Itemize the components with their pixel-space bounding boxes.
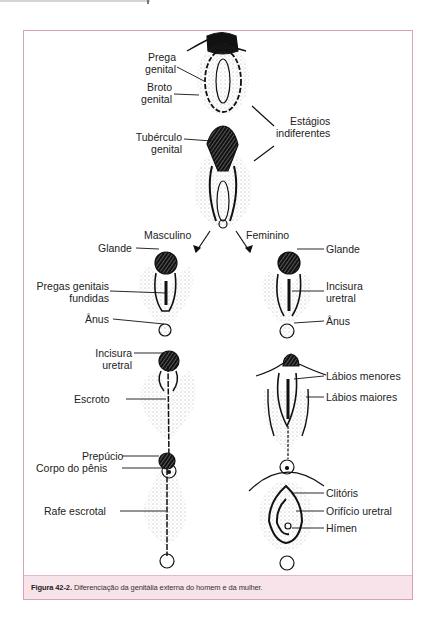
label-prepucio: Prepúcio (82, 450, 123, 462)
stage-1-drawing (187, 33, 249, 116)
label-corpo-do-penis: Corpo do pênis (36, 462, 107, 474)
male-stage-1-drawing (139, 252, 193, 336)
label-broto-genital: Broto genital (124, 81, 172, 105)
page-top-rule (0, 0, 150, 2)
figure-frame: Prega genital Broto genital Estágios ind… (23, 30, 413, 600)
label-pregas-genitais-fundidas: Pregas genitais fundidas (29, 280, 109, 304)
label-escroto: Escroto (74, 393, 110, 405)
label-female-anus: Ânus (326, 315, 350, 327)
label-estagios-indiferentes: Estágios indiferentes (276, 115, 330, 139)
page-top-tick (147, 0, 149, 4)
label-line: genital (124, 63, 176, 75)
label-line: Prega (124, 51, 176, 63)
figure-number: Figura 42-2. (31, 583, 72, 592)
label-line: uretral (326, 292, 363, 304)
label-prega-genital: Prega genital (124, 51, 176, 75)
label-himen: Hímen (326, 522, 357, 534)
label-male-glande: Glande (98, 242, 132, 254)
label-clitoris: Clitóris (326, 487, 358, 499)
stage-2-drawing (194, 126, 252, 228)
label-masculino: Masculino (144, 229, 191, 241)
label-line: indiferentes (276, 127, 330, 139)
label-tuberculo-genital: Tubérculo genital (120, 131, 182, 155)
label-line: genital (124, 93, 172, 105)
female-stage-1-drawing (262, 252, 312, 338)
female-stage-2-drawing (256, 354, 326, 474)
label-line: Broto (124, 81, 172, 93)
label-male-anus: Ânus (85, 313, 109, 325)
label-line: Tubérculo (120, 131, 182, 143)
label-rafe-escrotal: Rafe escrotal (44, 505, 106, 517)
label-line: Pregas genitais (29, 280, 109, 292)
label-feminino: Feminino (246, 229, 289, 241)
label-line: uretral (82, 359, 132, 371)
female-stage-3-drawing (249, 472, 324, 570)
male-stage-3-drawing (144, 453, 187, 568)
label-labios-maiores: Lábios maiores (326, 391, 397, 403)
label-line: Incisura (82, 347, 132, 359)
label-female-glande: Glande (326, 243, 360, 255)
label-orificio-uretral: Orifício uretral (326, 505, 392, 517)
label-line: fundidas (29, 292, 109, 304)
figure-caption-text: Diferenciação da genitália externa do ho… (72, 583, 263, 592)
label-male-incisura-uretral: Incisura uretral (82, 347, 132, 371)
label-labios-menores: Lábios menores (326, 370, 401, 382)
label-line: Estágios (276, 115, 330, 127)
label-line: genital (120, 143, 182, 155)
label-female-incisura-uretral: Incisura uretral (326, 280, 363, 304)
figure-caption: Figura 42-2. Diferenciação da genitália … (24, 575, 412, 599)
figure-illustration: Prega genital Broto genital Estágios ind… (24, 31, 412, 576)
label-line: Incisura (326, 280, 363, 292)
